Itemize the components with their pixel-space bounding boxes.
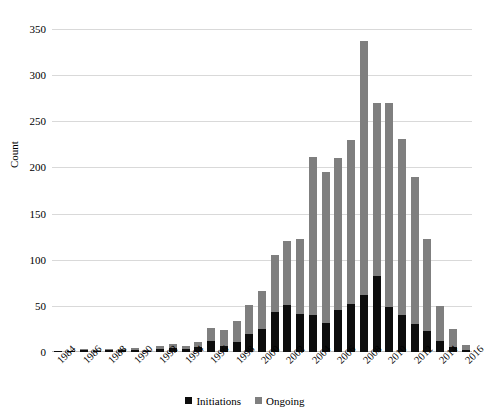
bar-segment-initiations[interactable] (233, 342, 241, 352)
bar-segment-ongoing[interactable] (283, 241, 291, 305)
bar-segment-ongoing[interactable] (423, 239, 431, 331)
bar-segment-initiations[interactable] (449, 347, 457, 352)
legend-item[interactable]: Ongoing (255, 394, 305, 407)
bar-segment-ongoing[interactable] (449, 329, 457, 347)
bar-segment-initiations[interactable] (385, 307, 393, 352)
bar-segment-initiations[interactable] (334, 310, 342, 352)
y-axis-tick-label: 0 (6, 347, 46, 358)
bar-segment-initiations[interactable] (360, 295, 368, 352)
bar-segment-ongoing[interactable] (373, 103, 381, 276)
bar-segment-initiations[interactable] (93, 351, 101, 352)
bar-segment-initiations[interactable] (373, 276, 381, 352)
bar-segment-ongoing[interactable] (411, 177, 419, 325)
bar-segment-initiations[interactable] (347, 304, 355, 352)
bar-segment-initiations[interactable] (283, 305, 291, 352)
bar-segment-initiations[interactable] (169, 348, 177, 352)
bar-series-group (52, 29, 472, 352)
y-axis-tick-label: 300 (6, 70, 46, 81)
bar-segment-ongoing[interactable] (398, 139, 406, 315)
bar-segment-initiations[interactable] (118, 350, 126, 352)
bar-segment-initiations[interactable] (258, 329, 266, 352)
bar-segment-ongoing[interactable] (233, 321, 241, 342)
chart-container: Count 050100150200250300350 198419861988… (0, 0, 490, 418)
legend-swatch-icon (255, 397, 262, 404)
bar-segment-ongoing[interactable] (271, 255, 279, 312)
chart-legend: InitiationsOngoing (0, 394, 490, 407)
bar-segment-ongoing[interactable] (220, 330, 228, 346)
bar-segment-initiations[interactable] (80, 350, 88, 352)
bar-segment-initiations[interactable] (398, 315, 406, 352)
bar-segment-initiations[interactable] (131, 350, 139, 352)
bar-segment-initiations[interactable] (207, 341, 215, 352)
bar-segment-initiations[interactable] (462, 350, 470, 352)
bar-segment-ongoing[interactable] (207, 328, 215, 341)
bar-segment-ongoing[interactable] (360, 41, 368, 295)
bar-segment-ongoing[interactable] (436, 306, 444, 341)
bar-segment-initiations[interactable] (156, 349, 164, 352)
bar-segment-ongoing[interactable] (309, 157, 317, 315)
legend-label: Ongoing (266, 395, 305, 407)
y-axis-tick-label: 150 (6, 209, 46, 220)
y-axis-tick-label: 350 (6, 24, 46, 35)
y-axis-tick-label: 50 (6, 301, 46, 312)
y-axis-tick-label: 100 (6, 255, 46, 266)
bar-segment-ongoing[interactable] (296, 239, 304, 314)
bar-segment-ongoing[interactable] (385, 103, 393, 307)
bar-segment-ongoing[interactable] (347, 140, 355, 304)
bar-segment-initiations[interactable] (411, 324, 419, 352)
y-axis-tick-label: 250 (6, 116, 46, 127)
bar-segment-initiations[interactable] (245, 334, 253, 352)
plot-area (52, 29, 472, 352)
legend-label: Initiations (196, 395, 241, 407)
bar-segment-initiations[interactable] (322, 323, 330, 352)
bar-segment-initiations[interactable] (296, 314, 304, 352)
bar-segment-initiations[interactable] (220, 346, 228, 352)
bar-segment-initiations[interactable] (194, 347, 202, 352)
bar-segment-initiations[interactable] (423, 331, 431, 352)
bar-segment-initiations[interactable] (67, 351, 75, 352)
bar-segment-ongoing[interactable] (322, 172, 330, 323)
legend-swatch-icon (185, 397, 192, 404)
bar-segment-initiations[interactable] (309, 315, 317, 352)
bar-segment-ongoing[interactable] (334, 158, 342, 309)
bar-segment-initiations[interactable] (436, 341, 444, 352)
legend-item[interactable]: Initiations (185, 394, 241, 407)
bar-segment-initiations[interactable] (182, 349, 190, 352)
bar-segment-ongoing[interactable] (245, 305, 253, 334)
bar-segment-ongoing[interactable] (258, 291, 266, 329)
bar-segment-initiations[interactable] (105, 350, 113, 352)
bar-segment-initiations[interactable] (271, 312, 279, 352)
bar-segment-initiations[interactable] (143, 351, 151, 352)
bar-segment-initiations[interactable] (54, 351, 62, 352)
y-axis-tick-label: 200 (6, 162, 46, 173)
